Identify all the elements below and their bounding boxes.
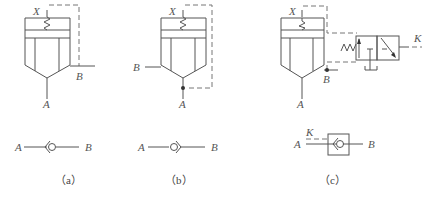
label-x: X [32,5,41,17]
spring-icon [299,18,305,30]
label-b: B [133,61,140,73]
symbol-label-b: B [85,141,92,153]
caption-c: （c） [319,174,346,186]
control-line-lower [327,62,357,70]
check-ball-icon [49,144,56,151]
check-ball-icon [171,144,178,151]
symbol-label-b: B [368,138,375,150]
pilot-valve: K [341,32,422,70]
symbol-label-k: K [305,126,314,138]
cartridge-valve-diagram: X B A A B （a） X B A A B （b） [0,0,433,200]
spring-icon [341,44,356,51]
panel-a-symbol: A B （a） [14,141,92,186]
label-x: X [168,5,177,17]
junction-dot [181,86,185,90]
symbol-label-a: A [137,141,145,153]
panel-a-valve: X B A [25,5,95,110]
panel-c-valve: X B A K [281,5,422,110]
label-k: K [413,32,422,44]
label-b: B [323,73,330,85]
panel-c-symbol: A K B （c） [293,126,375,186]
junction-dot [325,68,329,72]
panel-b-valve: X B A [133,5,212,110]
panel-b-symbol: A B （b） [137,141,218,186]
control-line [185,5,212,88]
label-a: A [178,98,186,110]
symbol-label-b: B [211,141,218,153]
valve-body [161,18,206,78]
label-b: B [76,70,83,82]
caption-b: （b） [165,174,193,186]
valve-body [25,18,70,78]
control-line-upper [303,6,357,33]
label-a: A [42,98,50,110]
check-ball-icon [337,141,344,148]
spring-icon [44,10,50,30]
spring-icon [180,10,186,30]
label-x: X [288,5,297,17]
control-line [49,5,79,66]
symbol-label-a: A [14,141,22,153]
label-a: A [296,98,304,110]
caption-a: （a） [55,174,82,186]
symbol-label-a: A [293,138,301,150]
